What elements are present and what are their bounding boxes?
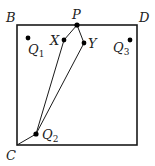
label-y: Y — [88, 36, 98, 51]
geometry-diagram: B D C P X Y Q1 Q3 Q2 — [0, 0, 155, 166]
point-p — [74, 22, 79, 27]
point-q1 — [26, 36, 31, 41]
label-x: X — [49, 33, 60, 48]
point-y — [82, 41, 87, 46]
label-p: P — [71, 7, 81, 22]
label-c: C — [6, 148, 16, 163]
label-q2: Q2 — [42, 127, 58, 144]
point-q2 — [33, 131, 38, 136]
point-x — [62, 38, 67, 43]
label-q3: Q3 — [113, 40, 130, 57]
label-d: D — [138, 10, 150, 25]
label-q1: Q1 — [28, 42, 44, 59]
segment-c-q2 — [17, 134, 36, 145]
label-b: B — [5, 10, 16, 25]
point-q3 — [128, 38, 133, 43]
segment-p-x — [64, 25, 77, 40]
segment-p-y — [77, 25, 84, 43]
